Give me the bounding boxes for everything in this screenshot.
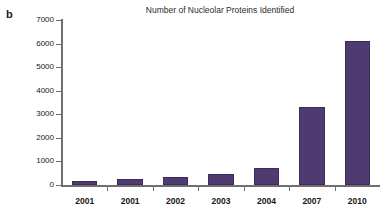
chart-title: Number of Nucleolar Proteins Identified bbox=[70, 6, 370, 15]
bar bbox=[208, 174, 233, 185]
bar bbox=[72, 181, 97, 185]
x-axis-tick-label: 2001 bbox=[121, 197, 140, 206]
y-axis-tick-label: 1000 bbox=[6, 157, 54, 165]
x-axis-tick-mark bbox=[153, 186, 154, 191]
x-axis-tick-label: 2010 bbox=[348, 197, 367, 206]
bar bbox=[163, 177, 188, 185]
bar bbox=[299, 107, 324, 185]
y-axis-tick-label: 2000 bbox=[6, 134, 54, 142]
x-axis-tick-mark bbox=[198, 186, 199, 191]
x-axis-tick-label: 2004 bbox=[257, 197, 276, 206]
y-axis-tick-label: 4000 bbox=[6, 87, 54, 95]
x-axis-tick-label: 2002 bbox=[166, 197, 185, 206]
x-axis-tick-label: 2007 bbox=[302, 197, 321, 206]
figure-panel: b Number of Nucleolar Proteins Identifie… bbox=[0, 0, 386, 216]
bar bbox=[117, 179, 142, 185]
x-axis-tick-mark bbox=[107, 186, 108, 191]
bar bbox=[345, 41, 370, 185]
y-axis-tick-label: 0 bbox=[6, 181, 54, 189]
x-axis-tick-mark bbox=[335, 186, 336, 191]
x-axis-tick-label: 2003 bbox=[212, 197, 231, 206]
y-axis-tick-label: 7000 bbox=[6, 16, 54, 24]
y-axis-tick-label: 3000 bbox=[6, 110, 54, 118]
x-axis-tick-label: 2001 bbox=[75, 197, 94, 206]
y-axis-tick-label: 5000 bbox=[6, 63, 54, 71]
x-axis-tick-mark bbox=[244, 186, 245, 191]
y-axis-tick-label: 6000 bbox=[6, 40, 54, 48]
y-axis-tick-mark bbox=[56, 185, 62, 186]
x-axis-tick-mark bbox=[289, 186, 290, 191]
plot-area bbox=[62, 20, 380, 185]
bar bbox=[254, 168, 279, 185]
x-axis-line bbox=[61, 185, 380, 187]
